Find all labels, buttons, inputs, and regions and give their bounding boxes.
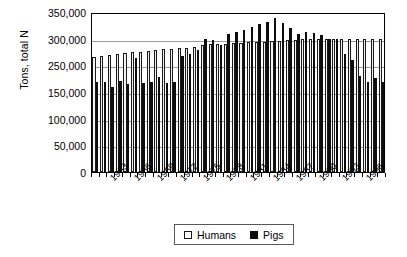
bar-pigs	[150, 82, 152, 172]
bar-pigs	[243, 30, 245, 172]
bar-pigs	[212, 40, 214, 172]
bar-group	[332, 14, 339, 172]
bar-group	[325, 14, 332, 172]
legend-entry-pigs: Pigs	[250, 229, 283, 241]
bar-group	[371, 14, 378, 172]
bar-group	[309, 14, 316, 172]
y-axis-tick-label: 50,000	[18, 141, 86, 151]
bar-pigs	[104, 82, 106, 172]
bar-pigs	[367, 82, 369, 172]
bar-group	[116, 14, 123, 172]
bar-group	[108, 14, 115, 172]
bar-group	[185, 14, 192, 172]
y-axis-tick-label: 300,000	[18, 35, 86, 45]
bar-pigs	[305, 32, 307, 172]
bar-pigs	[96, 82, 98, 172]
bar-group	[147, 14, 154, 172]
bar-pigs	[328, 39, 330, 172]
bar-group	[255, 14, 262, 172]
legend-label-humans: Humans	[197, 229, 236, 241]
bar-group	[209, 14, 216, 172]
bar-pigs	[297, 34, 299, 173]
bar-pigs	[119, 81, 121, 172]
bar-group	[379, 14, 385, 172]
bar-group	[294, 14, 301, 172]
bar-group	[340, 14, 347, 172]
bar-pigs	[382, 82, 384, 173]
bar-group	[263, 14, 270, 172]
bar-pigs	[158, 77, 160, 172]
bar-pigs	[344, 54, 346, 172]
bar-pigs	[189, 54, 191, 172]
bar-pigs	[374, 78, 376, 172]
bar-pigs	[282, 23, 284, 172]
bar-group	[270, 14, 277, 172]
bar-group	[178, 14, 185, 172]
y-axis-tick-label: 100,000	[18, 115, 86, 125]
bar-pigs	[313, 33, 315, 172]
bar-group	[154, 14, 161, 172]
bar-group	[131, 14, 138, 172]
bar-group	[363, 14, 370, 172]
legend-label-pigs: Pigs	[263, 229, 283, 241]
bar-pigs	[258, 24, 260, 172]
bar-group	[224, 14, 231, 172]
bar-group	[239, 14, 246, 172]
bar-pigs	[320, 35, 322, 172]
y-axis-tick-label: 250,000	[18, 61, 86, 71]
bar-pigs	[336, 39, 338, 172]
bar-group	[232, 14, 239, 172]
bar-group	[123, 14, 130, 172]
bar-pigs	[220, 45, 222, 172]
bar-pigs	[197, 50, 199, 172]
bar-group	[201, 14, 208, 172]
y-axis-tick-label: 0	[18, 168, 86, 178]
bar-pigs	[351, 60, 353, 172]
bar-series-container	[92, 14, 384, 172]
legend-entry-humans: Humans	[184, 229, 236, 241]
bar-pigs	[181, 56, 183, 172]
bar-pigs	[289, 28, 291, 172]
filled-square-swatch	[250, 231, 258, 239]
bar-group	[356, 14, 363, 172]
y-axis-tick-label: 350,000	[18, 8, 86, 18]
bar-group	[193, 14, 200, 172]
bar-pigs	[274, 18, 276, 172]
y-axis-tick-labels: 350,000300,000250,000150,000100,00050,00…	[18, 0, 86, 180]
bar-group	[100, 14, 107, 172]
x-axis-tick-labels: 1963196619691972197519781981198419871990…	[91, 176, 391, 210]
y-axis-tick-label: 150,000	[18, 88, 86, 98]
bar-group	[286, 14, 293, 172]
bar-group	[247, 14, 254, 172]
bar-pigs	[266, 22, 268, 172]
bar-group	[170, 14, 177, 172]
bar-group	[301, 14, 308, 172]
bar-chart-figure: Tons, total N 350,000300,000250,000150,0…	[0, 0, 407, 257]
bar-pigs	[166, 83, 168, 172]
bar-group	[278, 14, 285, 172]
bar-pigs	[227, 34, 229, 172]
bar-pigs	[235, 32, 237, 172]
bar-group	[92, 14, 99, 172]
bar-group	[317, 14, 324, 172]
open-square-swatch	[184, 231, 192, 239]
bar-pigs	[135, 58, 137, 172]
bar-group	[162, 14, 169, 172]
bar-group	[348, 14, 355, 172]
bar-pigs	[127, 84, 129, 172]
bar-pigs	[251, 27, 253, 172]
bar-pigs	[173, 82, 175, 172]
bar-pigs	[359, 76, 361, 172]
chart-legend: Humans Pigs	[174, 224, 294, 245]
bar-pigs	[111, 87, 113, 172]
bar-pigs	[204, 39, 206, 172]
bar-pigs	[142, 83, 144, 172]
bar-group	[139, 14, 146, 172]
plot-area	[91, 13, 385, 173]
bar-group	[216, 14, 223, 172]
